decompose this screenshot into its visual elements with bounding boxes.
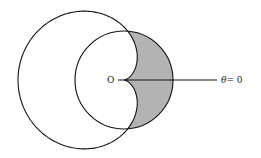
polar-diagram: O θ= 0 [0,0,261,158]
origin-label: O [107,75,114,85]
theta-equals-zero: = 0 [226,75,242,85]
theta-zero-label: θ= 0 [221,75,243,85]
